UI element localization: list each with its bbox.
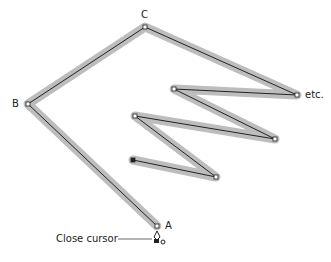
label-etc: etc. xyxy=(305,89,324,100)
anchor-point-c[interactable] xyxy=(143,25,147,29)
anchor-point-p7[interactable] xyxy=(133,114,137,118)
anchor-point-p4[interactable] xyxy=(295,93,299,97)
label-a: A xyxy=(165,220,172,231)
label-close-cursor: Close cursor xyxy=(56,233,118,244)
close-cursor-icon xyxy=(154,231,165,244)
label-b: B xyxy=(12,98,19,109)
label-c: C xyxy=(141,9,148,20)
anchor-point-p5[interactable] xyxy=(172,87,176,91)
anchor-point-p6[interactable] xyxy=(273,137,277,141)
anchor-point-p8[interactable] xyxy=(214,175,218,179)
anchor-point-a[interactable] xyxy=(155,224,159,228)
path-diagram: C B A etc. Close cursor xyxy=(0,0,331,262)
anchor-point-p9[interactable] xyxy=(131,158,135,162)
anchor-point-b[interactable] xyxy=(26,102,30,106)
path-highlight xyxy=(28,27,297,226)
